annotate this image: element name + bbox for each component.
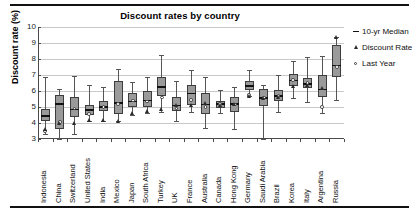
y-tick-label: 4 (20, 119, 36, 127)
upper-cap (203, 77, 208, 78)
lower-cap (130, 115, 135, 116)
upper-cap (261, 85, 266, 86)
x-tick-label: Canada (215, 177, 223, 203)
x-tick-label: Turkey (157, 180, 165, 203)
discount-rate-marker (72, 121, 76, 125)
lower-cap (305, 102, 310, 103)
upper-whisker (249, 70, 250, 81)
legend-item-last-year: Last Year (352, 59, 416, 68)
lower-cap (218, 113, 223, 114)
upper-whisker (45, 77, 46, 109)
box-plot-item[interactable] (55, 27, 64, 139)
upper-whisker (293, 61, 294, 75)
x-tick-label: Korea (288, 183, 296, 203)
median-marker (85, 109, 94, 111)
x-tick-label: India (99, 187, 107, 203)
box-plot-item[interactable] (41, 27, 50, 139)
x-tick-label: Argentina (317, 171, 325, 203)
median-marker (157, 86, 166, 88)
upper-cap (276, 75, 281, 76)
discount-rate-marker (130, 111, 134, 115)
x-tick-label: Brazil (273, 184, 281, 203)
box-plot-item[interactable] (245, 27, 254, 139)
upper-cap (232, 87, 237, 88)
discount-rate-marker (87, 118, 91, 122)
chart-legend: 10-yr Median Discount Rate Last Year (352, 27, 416, 75)
discount-rate-marker (320, 86, 324, 90)
upper-whisker (307, 57, 308, 78)
box-plot-item[interactable] (230, 27, 239, 139)
y-tick-mark (38, 139, 41, 140)
y-tick-mark (38, 123, 41, 124)
chart-figure: Discount rates by country Discount rate … (0, 0, 417, 216)
last-year-marker (320, 105, 324, 109)
box-plot-item[interactable] (289, 27, 298, 139)
box-plot-item[interactable] (201, 27, 210, 139)
lower-whisker (234, 112, 235, 130)
y-axis-tick-labels: 345678910 (18, 27, 36, 139)
x-tick-label: South Africa (142, 163, 150, 203)
discount-rate-marker (261, 96, 265, 100)
x-tick-label: Indonesia (40, 170, 48, 203)
lower-cap (291, 98, 296, 99)
lower-whisker (307, 88, 308, 102)
box-plot-item[interactable] (332, 27, 341, 139)
box-plot-item[interactable] (172, 27, 181, 139)
box-plot-item[interactable] (128, 27, 137, 139)
median-marker (41, 115, 50, 117)
box-plot-item[interactable] (303, 27, 312, 139)
upper-cap (320, 56, 325, 57)
upper-cap (57, 89, 62, 90)
lower-cap (276, 112, 281, 113)
upper-cap (305, 57, 310, 58)
box-plot-item[interactable] (259, 27, 268, 139)
box-plot-item[interactable] (99, 27, 108, 139)
discount-rate-marker (291, 84, 295, 88)
discount-rate-marker (218, 103, 222, 107)
discount-rate-marker (305, 83, 309, 87)
legend-label: 10-yr Median (362, 27, 416, 36)
discount-rate-marker (334, 35, 338, 39)
discount-rate-marker (276, 95, 280, 99)
box-iqr (332, 45, 341, 77)
y-tick-mark (38, 91, 41, 92)
box-plot-item[interactable] (114, 27, 123, 139)
box-plot-item[interactable] (187, 27, 196, 139)
discount-rate-marker (203, 101, 207, 105)
upper-cap (145, 77, 150, 78)
legend-item-discount-rate: Discount Rate (352, 43, 416, 52)
median-marker (55, 103, 64, 105)
x-tick-label: Australia (201, 174, 209, 203)
discount-rate-marker (116, 119, 120, 123)
last-year-marker (87, 112, 91, 116)
dash-marker-icon (353, 31, 359, 33)
box-plot-item[interactable] (216, 27, 225, 139)
box-plot-item[interactable] (274, 27, 283, 139)
last-year-marker (291, 78, 295, 82)
lower-cap (159, 112, 164, 113)
box-plot-item[interactable] (143, 27, 152, 139)
y-tick-label: 3 (20, 135, 36, 143)
upper-whisker (118, 69, 119, 82)
upper-cap (291, 61, 296, 62)
y-tick-label: 8 (20, 55, 36, 63)
legend-label: Last Year (362, 59, 416, 68)
upper-whisker (176, 81, 177, 97)
discount-rate-marker (43, 127, 47, 131)
upper-cap (116, 69, 121, 70)
box-plot-item[interactable] (70, 27, 79, 139)
upper-cap (218, 90, 223, 91)
last-year-marker (160, 96, 164, 100)
discount-rate-marker (174, 103, 178, 107)
box-plot-item[interactable] (157, 27, 166, 139)
lower-cap (189, 112, 194, 113)
box-plot-item[interactable] (85, 27, 94, 139)
x-tick-label: Mexico (113, 179, 121, 203)
x-tick-label: Saudi Arabia (259, 160, 267, 203)
discount-rate-marker (145, 109, 149, 113)
x-tick-label: Italy (303, 189, 311, 203)
y-tick-label: 5 (20, 103, 36, 111)
upper-cap (72, 76, 77, 77)
box-plot-item[interactable] (318, 27, 327, 139)
lower-cap (72, 134, 77, 135)
